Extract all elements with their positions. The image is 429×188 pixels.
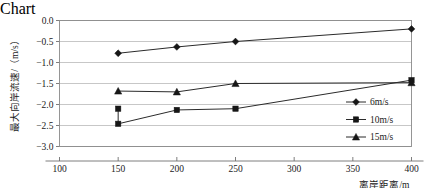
data-point-square xyxy=(115,121,120,126)
data-point-square xyxy=(115,106,120,111)
legend-item-15ms[interactable]: 15m/s xyxy=(346,132,394,142)
series-line xyxy=(118,29,411,53)
data-point-square xyxy=(353,117,358,122)
data-point-diamond xyxy=(408,26,415,33)
y-tick-label: −1.5 xyxy=(36,79,53,89)
legend-item-10ms[interactable]: 10m/s xyxy=(346,115,394,125)
y-tick-label: −2.5 xyxy=(36,121,53,131)
y-axis-title: 最大向岸流速/（m/s） xyxy=(9,35,20,131)
chart-figure: 0.0−0.5−1.0−1.5−2.0−2.5−3.01001502002503… xyxy=(0,0,429,188)
x-axis: 100150200250300350400 xyxy=(46,157,424,174)
x-tick-label: 150 xyxy=(111,164,126,174)
x-tick-label: 250 xyxy=(228,164,243,174)
legend-label: 10m/s xyxy=(370,115,394,125)
y-tick-label: 0.0 xyxy=(42,16,54,26)
legend-label: 15m/s xyxy=(370,132,394,142)
y-tick-label: −3.0 xyxy=(36,142,53,152)
data-point-square xyxy=(233,106,238,111)
x-tick-label: 400 xyxy=(404,164,419,174)
series-line xyxy=(118,80,411,124)
data-point-diamond xyxy=(232,38,239,45)
x-tick-label: 100 xyxy=(52,164,67,174)
y-tick-label: −0.5 xyxy=(36,37,53,47)
legend-label: 6m/s xyxy=(370,97,389,107)
data-point-diamond xyxy=(115,50,122,57)
y-gridlines: 0.0−0.5−1.0−1.5−2.0−2.5−3.0 xyxy=(36,16,411,152)
x-tick-label: 350 xyxy=(346,164,361,174)
legend-item-6ms[interactable]: 6m/s xyxy=(346,97,389,107)
data-point-square xyxy=(174,107,179,112)
series-6ms xyxy=(115,26,415,57)
x-axis-title: 离岸距离/m xyxy=(359,179,410,188)
y-tick-label: −1.0 xyxy=(36,58,53,68)
y-tick-label: −2.0 xyxy=(36,100,53,110)
line-chart: 0.0−0.5−1.0−1.5−2.0−2.5−3.01001502002503… xyxy=(0,0,429,188)
x-tick-label: 300 xyxy=(287,164,302,174)
x-tick-label: 200 xyxy=(170,164,185,174)
data-point-diamond xyxy=(173,44,180,51)
legend: 6m/s10m/s15m/s xyxy=(346,97,394,142)
